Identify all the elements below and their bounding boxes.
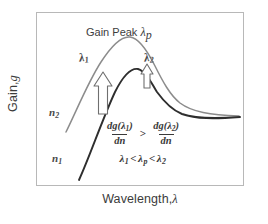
equation-rhs-numerator: dg(λ2) xyxy=(151,120,181,133)
gain-spectrum-figure: Gain Peak λp λ1 λ2 n2 n1 dg(λ1) dn > dg(… xyxy=(0,0,268,224)
equation-main-row: dg(λ1) dn > dg(λ2) dn xyxy=(88,120,198,146)
equation-rhs-denominator: dn xyxy=(159,134,174,147)
y-axis-label-symbol: g xyxy=(6,75,20,81)
rhs-num-suffix: ) xyxy=(176,120,180,131)
lambda-1-label: λ1 xyxy=(78,49,90,65)
derivative-equation: dg(λ1) dn > dg(λ2) dn λ1<λp<λ2 xyxy=(88,120,198,166)
y-axis-label-text: Gain, xyxy=(6,81,20,111)
equation-operator: > xyxy=(139,127,147,139)
curve-label-n1-subscript: 1 xyxy=(58,157,62,166)
equation-lhs-fraction: dg(λ1) dn xyxy=(105,120,135,146)
y-axis-label: Gain,g xyxy=(6,59,21,129)
equation-lhs-numerator: dg(λ1) xyxy=(105,120,135,133)
gain-peak-title: Gain Peak λp xyxy=(86,25,152,43)
lambda-2-subscript: 2 xyxy=(149,54,155,65)
curve-label-n2: n2 xyxy=(49,106,59,120)
gain-peak-title-text: Gain Peak xyxy=(86,26,137,38)
equation-lhs-denominator: dn xyxy=(112,134,127,147)
rhs-num-prefix: dg( xyxy=(153,120,167,131)
ineq-sub-2: 2 xyxy=(162,157,166,166)
wavelength-inequality: λ1<λp<λ2 xyxy=(88,152,198,166)
curve-label-n1: n1 xyxy=(52,152,62,166)
x-axis-label: Wavelength,λ xyxy=(36,192,244,207)
ineq-op-1: < xyxy=(129,152,138,164)
lambda-2-label: λ2 xyxy=(143,49,155,65)
lhs-num-prefix: dg( xyxy=(107,120,121,131)
lhs-num-suffix: ) xyxy=(129,120,133,131)
curve-label-n2-subscript: 2 xyxy=(55,111,59,120)
equation-rhs-fraction: dg(λ2) dn xyxy=(151,120,181,146)
ineq-op-2: < xyxy=(148,152,157,164)
x-axis-label-symbol: λ xyxy=(172,192,178,206)
x-axis-label-text: Wavelength, xyxy=(102,192,172,206)
gain-peak-lambda-subscript: p xyxy=(146,28,152,42)
